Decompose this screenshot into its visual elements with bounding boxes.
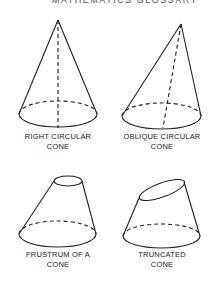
caption-frustrum: FRUSTRUM OF A CONE	[8, 250, 108, 270]
caption-truncated-cone: TRUNCATED CONE	[112, 250, 210, 270]
caption-oblique-circular-cone: OBLIQUE CIRCULAR CONE	[112, 132, 210, 152]
truncated-cone-figure	[123, 175, 200, 248]
oblique-circular-cone-figure	[122, 24, 201, 129]
frustrum-figure	[19, 176, 96, 247]
right-circular-cone-figure	[19, 20, 97, 128]
caption-right-circular-cone: RIGHT CIRCULAR CONE	[8, 132, 108, 152]
